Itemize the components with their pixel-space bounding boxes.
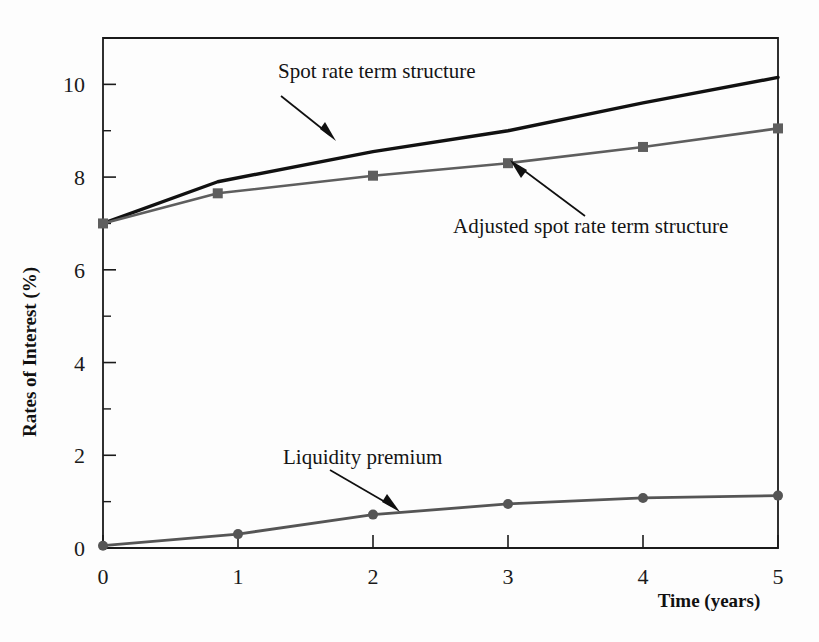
x-tick-label: 5 (773, 564, 784, 589)
x-axis-tick-labels: 012345 (98, 564, 784, 589)
y-axis-title: Rates of Interest (%) (19, 267, 41, 437)
data-point-marker (638, 142, 648, 152)
y-axis-tick-labels: 0246810 (63, 72, 85, 561)
data-point-marker (98, 541, 108, 551)
y-tick-label: 2 (74, 443, 85, 468)
line-chart: 0246810 012345 Spot rat (0, 0, 819, 642)
axis-frame (103, 38, 778, 548)
series-group (98, 77, 783, 550)
data-point-marker (98, 218, 108, 228)
y-tick-label: 0 (74, 536, 85, 561)
data-point-marker (213, 188, 223, 198)
series-line-liquidity-premium (103, 496, 778, 546)
x-tick-label: 0 (98, 564, 109, 589)
data-point-marker (233, 529, 243, 539)
data-point-marker (368, 171, 378, 181)
y-tick-label: 8 (74, 165, 85, 190)
data-point-marker (773, 491, 783, 501)
chart-figure: 0246810 012345 Spot rat (0, 0, 819, 642)
y-tick-label: 6 (74, 258, 85, 283)
arrow-spot-rate (281, 96, 336, 141)
data-point-marker (638, 493, 648, 503)
annotation-premium-label: Liquidity premium (283, 445, 442, 469)
arrow-liquidity-premium (330, 470, 400, 512)
annotation-spot-rate-label: Spot rate term structure (278, 59, 476, 83)
y-axis-ticks (103, 38, 116, 548)
series-markers-liquidity-premium (98, 491, 783, 551)
data-point-marker (773, 123, 783, 133)
arrow-adjusted-spot-rate (510, 160, 585, 216)
x-tick-label: 3 (503, 564, 514, 589)
data-point-marker (503, 158, 513, 168)
annotation-adjusted-label: Adjusted spot rate term structure (453, 214, 728, 238)
x-tick-label: 1 (233, 564, 244, 589)
data-point-marker (368, 510, 378, 520)
x-tick-label: 4 (638, 564, 649, 589)
y-tick-label: 10 (63, 72, 85, 97)
y-tick-label: 4 (74, 351, 85, 376)
series-markers-adjusted-spot-rate (98, 123, 783, 228)
data-point-marker (503, 499, 513, 509)
x-tick-label: 2 (368, 564, 379, 589)
series-line-spot-rate (103, 77, 778, 223)
x-axis-title: Time (years) (658, 590, 761, 612)
